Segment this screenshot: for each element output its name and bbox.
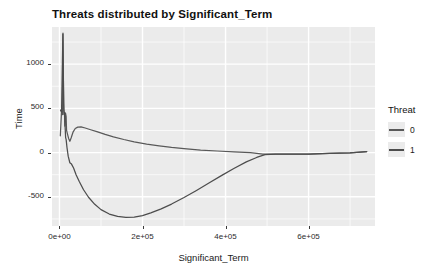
plot-panel bbox=[52, 27, 375, 226]
chart-title: Threats distributed by Significant_Term bbox=[52, 8, 272, 20]
y-tick-mark bbox=[48, 64, 51, 65]
x-tick-mark bbox=[59, 226, 60, 229]
x-tick-label: 0e+00 bbox=[29, 232, 89, 241]
x-tick-mark bbox=[309, 226, 310, 229]
y-tick-mark bbox=[48, 197, 51, 198]
y-tick-label: 1000 bbox=[2, 58, 44, 67]
legend-items: 01 bbox=[388, 122, 440, 157]
y-tick-mark bbox=[48, 153, 51, 154]
y-axis-title: Time bbox=[13, 89, 24, 149]
y-tick-mark bbox=[48, 108, 51, 109]
x-tick-label: 2e+05 bbox=[113, 232, 173, 241]
x-tick-label: 6e+05 bbox=[279, 232, 339, 241]
series-lines bbox=[60, 33, 366, 217]
x-tick-mark bbox=[143, 226, 144, 229]
legend-item-1[interactable]: 1 bbox=[388, 142, 440, 157]
series-line-1 bbox=[61, 34, 367, 217]
legend-key-swatch bbox=[388, 122, 405, 137]
x-tick-label: 4e+05 bbox=[196, 232, 256, 241]
x-axis-title: Significant_Term bbox=[52, 252, 375, 263]
chart-container: Threats distributed by Significant_Term … bbox=[0, 0, 441, 276]
legend-line-icon bbox=[389, 129, 404, 131]
legend-title: Threat bbox=[388, 104, 440, 115]
legend: Threat 01 bbox=[388, 104, 440, 162]
legend-item-0[interactable]: 0 bbox=[388, 122, 440, 137]
legend-label: 0 bbox=[410, 125, 415, 135]
plot-svg bbox=[52, 27, 375, 226]
series-line-0 bbox=[60, 33, 366, 154]
x-tick-mark bbox=[226, 226, 227, 229]
y-tick-label: -500 bbox=[2, 191, 44, 200]
legend-line-icon bbox=[389, 149, 404, 151]
legend-key-swatch bbox=[388, 142, 405, 157]
grid-major-lines bbox=[52, 27, 375, 226]
legend-label: 1 bbox=[410, 145, 415, 155]
